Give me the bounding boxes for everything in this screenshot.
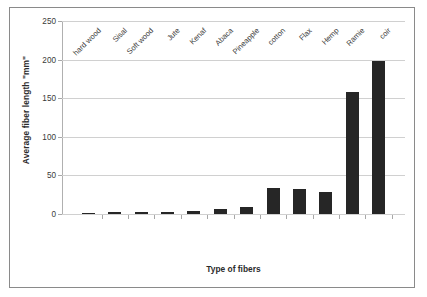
y-tick-mark [58, 175, 62, 176]
y-axis-line [62, 21, 63, 215]
x-tick-mark [207, 215, 208, 219]
bar [319, 192, 332, 214]
x-tick-mark [260, 215, 261, 219]
bar [372, 61, 385, 214]
x-tick-mark [181, 215, 182, 219]
x-tick-label: Jute [165, 26, 182, 43]
y-axis-title: Average fiber length "mm" [21, 35, 31, 185]
x-tick-label: Abaca [213, 26, 235, 48]
x-tick-mark [365, 215, 366, 219]
y-tick-label: 200 [42, 55, 56, 64]
x-tick-label: Kenaf [188, 26, 208, 46]
bar [240, 207, 253, 214]
bar [82, 213, 95, 215]
y-tick-mark [58, 214, 62, 215]
x-tick-label: Soft wood [125, 26, 155, 56]
x-tick-label: Ramie [345, 26, 367, 48]
x-tick-mark [154, 215, 155, 219]
y-tick-label: 0 [51, 210, 56, 219]
x-tick-label: Pineapple [231, 26, 261, 56]
y-tick-mark [58, 98, 62, 99]
x-tick-mark [339, 215, 340, 219]
chart-figure: Average fiber length "mm" 05010015020025… [0, 0, 427, 297]
y-tick-mark [58, 137, 62, 138]
x-tick-mark [128, 215, 129, 219]
x-tick-mark [392, 215, 393, 219]
bar [267, 188, 280, 214]
x-axis-title: Type of fibers [62, 264, 405, 274]
y-tick-label: 50 [47, 171, 56, 180]
bar [214, 209, 227, 214]
bar [293, 189, 306, 214]
y-tick-label: 150 [42, 94, 56, 103]
x-tick-mark [313, 215, 314, 219]
x-tick-label: coir [378, 26, 393, 41]
x-tick-label: Hemp [320, 26, 341, 47]
bar [135, 212, 148, 214]
bar [346, 92, 359, 214]
x-tick-label: hard wood [71, 26, 102, 57]
x-tick-label: cotton [266, 26, 287, 47]
x-tick-label: Sisal [111, 26, 129, 44]
y-tick-label: 100 [42, 132, 56, 141]
x-tick-mark [234, 215, 235, 219]
x-tick-mark [102, 215, 103, 219]
plot-area: 050100150200250 hard woodSisalSoft woodJ… [62, 21, 405, 215]
y-tick-label: 250 [42, 17, 56, 26]
bar [187, 211, 200, 214]
y-tick-mark [58, 60, 62, 61]
bar [108, 212, 121, 214]
gridline [62, 21, 405, 22]
gridline [62, 60, 405, 61]
y-tick-mark [58, 21, 62, 22]
x-tick-label: Flax [297, 26, 314, 43]
x-tick-mark [286, 215, 287, 219]
bar [161, 212, 174, 214]
